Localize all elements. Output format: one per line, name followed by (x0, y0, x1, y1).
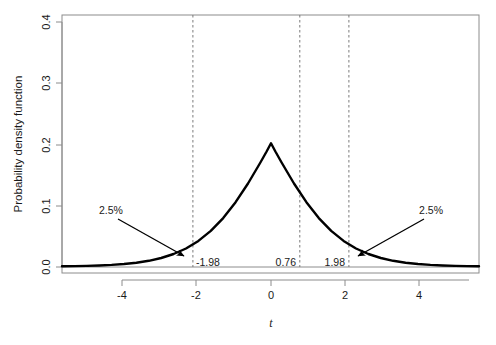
y-tick-label-3: 0.3 (40, 75, 52, 90)
x-tick-label-4: 4 (416, 289, 422, 301)
x-tick-label-0: -4 (117, 289, 127, 301)
label-observed-t-statistic: 0.76 (276, 256, 297, 268)
annotation-label-upper-tail: 2.5% (419, 204, 443, 216)
annotation-label-lower-tail: 2.5% (99, 204, 123, 216)
x-tick-label-2: 0 (268, 289, 274, 301)
t-distribution-chart: 0.0 0.1 0.2 0.3 0.4 -4 -2 0 2 4 Probabil… (0, 0, 496, 345)
figure-container: 0.0 0.1 0.2 0.3 0.4 -4 -2 0 2 4 Probabil… (0, 0, 496, 345)
y-axis-title: Probability density function (12, 76, 24, 213)
label-lower-critical-value: -1.98 (196, 256, 220, 268)
label-upper-critical-value: 1.98 (325, 256, 346, 268)
y-tick-label-0: 0.0 (40, 259, 52, 274)
y-tick-label-2: 0.2 (40, 137, 52, 152)
y-tick-label-1: 0.1 (40, 198, 52, 213)
x-tick-label-3: 2 (342, 289, 348, 301)
y-tick-label-4: 0.4 (40, 14, 52, 29)
x-tick-label-1: -2 (191, 289, 201, 301)
